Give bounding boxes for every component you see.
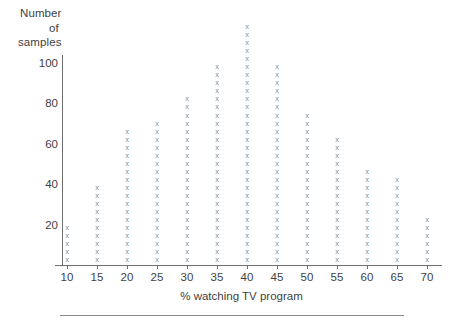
data-mark: x [209, 256, 225, 264]
x-tick-mark-60 [367, 265, 368, 269]
x-tick-mark-20 [127, 265, 128, 269]
dot-column-60: xxxxxxxxxxxx [359, 168, 375, 265]
data-mark: x [179, 256, 195, 264]
data-mark: x [419, 256, 435, 264]
y-tick-label-40: 40 [28, 178, 58, 190]
data-mark: x [119, 256, 135, 264]
x-tick-label-50: 50 [290, 271, 324, 283]
data-mark: x [269, 256, 285, 264]
data-mark: x [359, 256, 375, 264]
x-tick-mark-40 [247, 265, 248, 269]
dot-column-45: xxxxxxxxxxxxxxxxxxxxxxxxx [269, 63, 285, 264]
dot-column-35: xxxxxxxxxxxxxxxxxxxxxxxxx [209, 63, 225, 264]
x-tick-label-25: 25 [140, 271, 174, 283]
footer-divider [60, 315, 404, 316]
x-tick-label-55: 55 [320, 271, 354, 283]
dot-column-30: xxxxxxxxxxxxxxxxxxxxx [179, 95, 195, 264]
y-tick-label-80: 80 [28, 97, 58, 109]
x-tick-mark-25 [157, 265, 158, 269]
dot-column-15: xxxxxxxxxx [89, 184, 105, 265]
data-mark: x [299, 256, 315, 264]
data-mark: x [239, 256, 255, 264]
x-tick-label-65: 65 [380, 271, 414, 283]
x-tick-label-20: 20 [110, 271, 144, 283]
x-tick-mark-35 [217, 265, 218, 269]
x-tick-label-60: 60 [350, 271, 384, 283]
x-tick-label-30: 30 [170, 271, 204, 283]
dot-column-25: xxxxxxxxxxxxxxxxxx [149, 120, 165, 265]
x-tick-mark-30 [187, 265, 188, 269]
y-tick-label-20: 20 [28, 219, 58, 231]
x-axis-line [55, 265, 442, 266]
dot-column-65: xxxxxxxxxxx [389, 176, 405, 265]
y-tick-label-100: 100 [28, 57, 58, 69]
dot-column-40: xxxxxxxxxxxxxxxxxxxxxxxxxxxxxx [239, 23, 255, 265]
data-mark: x [149, 256, 165, 264]
x-tick-mark-15 [97, 265, 98, 269]
dot-column-50: xxxxxxxxxxxxxxxxxxx [299, 112, 315, 265]
x-tick-mark-10 [67, 265, 68, 269]
data-mark: x [59, 256, 75, 264]
x-tick-label-70: 70 [410, 271, 444, 283]
x-tick-label-40: 40 [230, 271, 264, 283]
x-tick-mark-45 [277, 265, 278, 269]
x-tick-label-10: 10 [50, 271, 84, 283]
data-mark: x [389, 256, 405, 264]
x-axis-title: % watching TV program [0, 290, 467, 302]
x-tick-mark-50 [307, 265, 308, 269]
dot-column-10: xxxxx [59, 224, 75, 264]
dot-column-20: xxxxxxxxxxxxxxxxx [119, 128, 135, 265]
tv-program-dot-plot-figure: Number of samples 20406080100 1015202530… [0, 0, 467, 323]
dot-column-70: xxxxxx [419, 216, 435, 264]
x-tick-mark-70 [427, 265, 428, 269]
data-mark: x [329, 256, 345, 264]
x-tick-label-45: 45 [260, 271, 294, 283]
x-tick-mark-55 [337, 265, 338, 269]
x-tick-label-15: 15 [80, 271, 114, 283]
data-mark: x [89, 256, 105, 264]
x-tick-mark-65 [397, 265, 398, 269]
dot-column-55: xxxxxxxxxxxxxxxx [329, 136, 345, 265]
x-tick-label-35: 35 [200, 271, 234, 283]
y-tick-label-60: 60 [28, 138, 58, 150]
